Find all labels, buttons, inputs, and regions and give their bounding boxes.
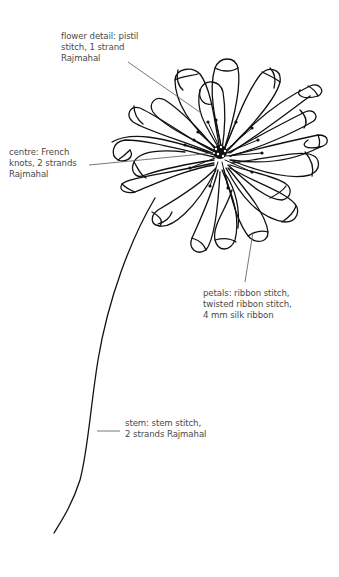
label-petals: petals: ribbon stitch, twisted ribbon st… [203, 288, 292, 321]
stem [54, 198, 155, 533]
stitch-diagram: flower detail: pistil stitch, 1 strand R… [0, 0, 339, 577]
petal-right-mid [228, 110, 316, 156]
label-centre: centre: French knots, 2 strands Rajmahal [9, 147, 77, 180]
label-flower-detail: flower detail: pistil stitch, 1 strand R… [61, 31, 138, 64]
petal-left-mid [133, 151, 214, 178]
petal-bottom-left [152, 168, 216, 226]
leader-petals [245, 232, 253, 282]
petal-top [212, 59, 239, 150]
petal-left-lower [121, 163, 214, 193]
label-stem: stem: stem stitch, 2 strands Rajmahal [125, 418, 206, 440]
petal-right-lower [230, 152, 319, 177]
centre-french-knots [213, 145, 227, 159]
petal-bottom-right [224, 168, 268, 241]
